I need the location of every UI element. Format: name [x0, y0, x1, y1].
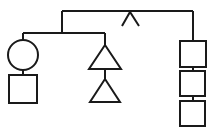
node-left-circle[interactable] [8, 40, 38, 70]
node-left-square[interactable] [9, 75, 37, 103]
node-right-square-bottom[interactable] [180, 101, 205, 126]
diagram-canvas [0, 0, 208, 128]
kinship-diagram [0, 0, 208, 128]
node-right-square-top[interactable] [180, 41, 206, 67]
node-right-square-middle[interactable] [180, 71, 205, 96]
